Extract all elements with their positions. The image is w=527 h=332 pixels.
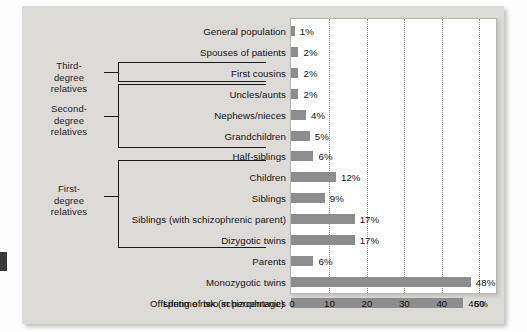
bar-row: Grandchildren5% [0, 126, 527, 147]
bar-value-label: 4% [311, 105, 325, 126]
bar [291, 110, 306, 120]
category-label: Monozygotic twins [24, 272, 286, 293]
bar-value-label: 12% [341, 167, 361, 188]
bar-row: Siblings9% [0, 188, 527, 209]
bar-row: Uncles/aunts2% [0, 84, 527, 105]
bar [291, 277, 471, 287]
bar-value-label: 2% [303, 63, 317, 84]
category-label: Parents [24, 251, 286, 272]
x-tick-label-20: 20 [356, 297, 378, 310]
bar-row: Spouses of patients2% [0, 42, 527, 63]
bar-row: Siblings (with schizophrenic parent)17% [0, 209, 527, 230]
x-axis-tick-labels: 01020304050 [0, 297, 527, 311]
bar-value-label: 6% [318, 251, 332, 272]
category-label: Siblings [24, 188, 286, 209]
x-tick-label-10: 10 [318, 297, 340, 310]
bar [291, 47, 298, 57]
bar [291, 193, 325, 203]
bar-row: Children12% [0, 167, 527, 188]
bar-value-label: 2% [303, 84, 317, 105]
category-label: Grandchildren [24, 126, 286, 147]
category-label: Uncles/aunts [24, 84, 286, 105]
x-tick-label-40: 40 [431, 297, 453, 310]
bar [291, 131, 310, 141]
bar-row: Dizygotic twins17% [0, 230, 527, 251]
bar-value-label: 1% [300, 21, 314, 42]
category-label: Spouses of patients [24, 42, 286, 63]
bar-value-label: 17% [360, 209, 380, 230]
bar-value-label: 17% [360, 230, 380, 251]
bar [291, 89, 298, 99]
category-label: Half-siblings [24, 146, 286, 167]
category-label: Children [24, 167, 286, 188]
x-tick-label-50: 50 [468, 297, 490, 310]
category-label: Siblings (with schizophrenic parent) [24, 209, 286, 230]
bar [291, 214, 355, 224]
bar [291, 235, 355, 245]
bar-value-label: 48% [476, 272, 496, 293]
bar-value-label: 9% [330, 188, 344, 209]
bar-row: Nephews/nieces4% [0, 105, 527, 126]
bar-row: Half-siblings6% [0, 146, 527, 167]
bar [291, 68, 298, 78]
category-label: Dizygotic twins [24, 230, 286, 251]
bar [291, 172, 336, 182]
scanned-page-background: Third-degreerelatives Second-degreerelat… [0, 0, 527, 332]
bar-value-label: 2% [303, 42, 317, 63]
bar-value-label: 5% [315, 126, 329, 147]
category-label: First cousins [24, 63, 286, 84]
bar-row: Parents6% [0, 251, 527, 272]
bar-row: Monozygotic twins48% [0, 272, 527, 293]
x-tick-label-30: 30 [393, 297, 415, 310]
bar [291, 256, 313, 266]
category-label: Nephews/nieces [24, 105, 286, 126]
bar [291, 26, 295, 36]
x-tick-label-0: 0 [281, 297, 303, 310]
bar-row: General population1% [0, 21, 527, 42]
bar-row: First cousins2% [0, 63, 527, 84]
category-label: General population [24, 21, 286, 42]
bar [291, 151, 313, 161]
bar-value-label: 6% [318, 146, 332, 167]
